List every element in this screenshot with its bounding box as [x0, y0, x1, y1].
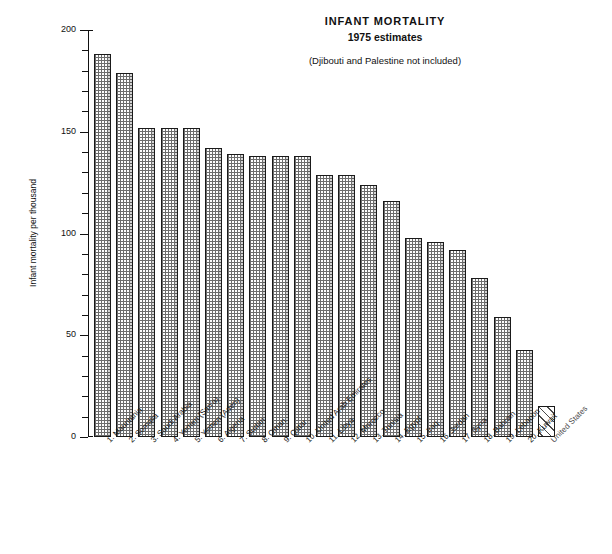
- y-axis-minor-tick: [82, 254, 88, 255]
- y-axis-minor-tick: [82, 193, 88, 194]
- y-axis-major-tick: 200: [80, 30, 88, 31]
- bar: [138, 128, 155, 437]
- y-axis-minor-tick: [82, 315, 88, 316]
- x-axis-tick-labels: 1. Mauritania2. Somalia3. Saudi Arabia4.…: [89, 438, 609, 554]
- bar: [94, 54, 111, 437]
- bar: [449, 250, 466, 437]
- y-axis-tick-label: 200: [61, 24, 76, 34]
- bar: [161, 128, 178, 437]
- y-axis-tick-label: 50: [66, 329, 76, 339]
- bar: [471, 278, 488, 437]
- bar: [294, 156, 311, 437]
- bar: [316, 175, 333, 438]
- y-axis-tick-label: 150: [61, 126, 76, 136]
- y-axis-major-tick: 100: [80, 234, 88, 235]
- bar: [360, 185, 377, 437]
- y-axis-minor-tick: [82, 71, 88, 72]
- y-axis-minor-tick: [82, 213, 88, 214]
- bar: [405, 238, 422, 437]
- y-axis-minor-tick: [82, 376, 88, 377]
- bar-series: [89, 30, 598, 437]
- y-axis-minor-tick: [82, 274, 88, 275]
- bar: [227, 154, 244, 437]
- plot-area: 050100150200: [88, 30, 598, 437]
- y-axis-minor-tick: [82, 396, 88, 397]
- y-axis-major-tick: 150: [80, 132, 88, 133]
- bar: [116, 73, 133, 437]
- y-axis-minor-tick: [82, 50, 88, 51]
- chart-title: INFANT MORTALITY: [255, 14, 515, 29]
- y-axis-major-tick: 0: [80, 437, 88, 438]
- bar: [383, 201, 400, 437]
- y-axis-major-tick: 50: [80, 335, 88, 336]
- bar: [249, 156, 266, 437]
- y-axis-minor-tick: [82, 172, 88, 173]
- y-axis-minor-tick: [82, 356, 88, 357]
- bar: [427, 242, 444, 437]
- y-axis-minor-tick: [82, 417, 88, 418]
- y-axis-label: Infant mortality per thousand: [28, 153, 38, 313]
- y-axis-tick-label: 0: [71, 431, 76, 441]
- bar: [272, 156, 289, 437]
- y-axis-tick-label: 100: [61, 228, 76, 238]
- y-axis-minor-tick: [82, 152, 88, 153]
- bar: [183, 128, 200, 437]
- y-axis-minor-tick: [82, 111, 88, 112]
- y-axis-minor-tick: [82, 295, 88, 296]
- infant-mortality-bar-chart: INFANT MORTALITY 1975 estimates (Djibout…: [0, 0, 612, 554]
- y-axis-minor-tick: [82, 91, 88, 92]
